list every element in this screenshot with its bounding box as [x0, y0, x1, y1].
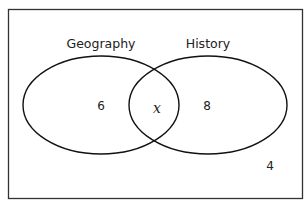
- intersection-value: x: [153, 100, 161, 116]
- history-label: History: [186, 36, 231, 51]
- geography-label: Geography: [66, 36, 136, 51]
- geography-only-value: 6: [97, 99, 105, 113]
- outside-value: 4: [266, 159, 274, 173]
- history-only-value: 8: [203, 99, 211, 113]
- venn-diagram: Geography History 6 x 8 4: [0, 0, 308, 204]
